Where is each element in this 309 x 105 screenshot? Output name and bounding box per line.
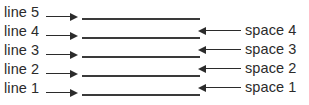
line-label: line 5	[4, 3, 39, 22]
space-label: space 2	[245, 59, 297, 78]
line-label: line 1	[4, 79, 39, 98]
space-label: space 1	[245, 78, 297, 97]
diagram-row: line 5	[0, 3, 309, 22]
arrow-right-icon	[46, 50, 78, 59]
diagram-row: line 4 space 4	[0, 22, 309, 41]
arrow-right-icon	[46, 31, 78, 40]
diagram-row: line 3 space 3	[0, 41, 309, 60]
arrow-head	[70, 70, 78, 78]
lines-and-spaces-diagram: line 5 line 4 space 4 line 3	[0, 0, 309, 105]
arrow-shaft	[46, 73, 71, 75]
arrow-head	[70, 51, 78, 59]
diagram-row: line 2 space 2	[0, 60, 309, 79]
arrow-shaft	[46, 54, 71, 56]
arrow-left-icon	[198, 45, 241, 54]
space-label: space 3	[245, 40, 297, 59]
arrow-shaft	[205, 87, 241, 89]
arrow-head	[70, 89, 78, 97]
blank-rule	[82, 37, 200, 39]
arrow-head	[70, 32, 78, 40]
space-label: space 4	[245, 21, 297, 40]
arrow-shaft	[205, 49, 241, 51]
line-label: line 3	[4, 41, 39, 60]
blank-rule	[82, 18, 200, 20]
blank-rule	[82, 94, 200, 96]
arrow-right-icon	[46, 69, 78, 78]
arrow-left-icon	[198, 26, 241, 35]
arrow-shaft	[205, 30, 241, 32]
line-label: line 4	[4, 22, 39, 41]
arrow-left-icon	[198, 64, 241, 73]
diagram-row: line 1 space 1	[0, 79, 309, 98]
arrow-right-icon	[46, 12, 78, 21]
blank-rule	[82, 75, 200, 77]
arrow-shaft	[46, 35, 71, 37]
arrow-head	[70, 13, 78, 21]
line-label: line 2	[4, 60, 39, 79]
blank-rule	[82, 56, 200, 58]
arrow-right-icon	[46, 88, 78, 97]
arrow-shaft	[46, 92, 71, 94]
arrow-shaft	[205, 68, 241, 70]
arrow-left-icon	[198, 83, 241, 92]
arrow-shaft	[46, 16, 71, 18]
